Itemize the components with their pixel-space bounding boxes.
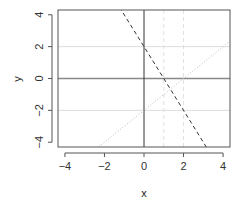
- x-tick-label: −4: [59, 160, 72, 172]
- x-axis: −4−2024: [59, 153, 226, 172]
- x-tick-label: 2: [180, 160, 186, 172]
- y-tick-label: −4: [33, 136, 45, 149]
- x-axis-label: x: [141, 187, 147, 199]
- x-tick-label: 4: [220, 160, 226, 172]
- series-line: [38, 0, 241, 205]
- x-tick-label: −2: [98, 160, 111, 172]
- y-tick-label: 2: [33, 44, 45, 50]
- y-tick-label: 4: [33, 12, 45, 18]
- y-tick-label: −2: [33, 104, 45, 117]
- y-axis-label: y: [11, 76, 23, 82]
- chart: −4−2024 −4−2024 x y: [0, 0, 241, 205]
- y-tick-label: 0: [33, 75, 45, 81]
- plot-area: [38, 0, 241, 205]
- x-tick-label: 0: [141, 160, 147, 172]
- y-axis: −4−2024: [33, 12, 52, 149]
